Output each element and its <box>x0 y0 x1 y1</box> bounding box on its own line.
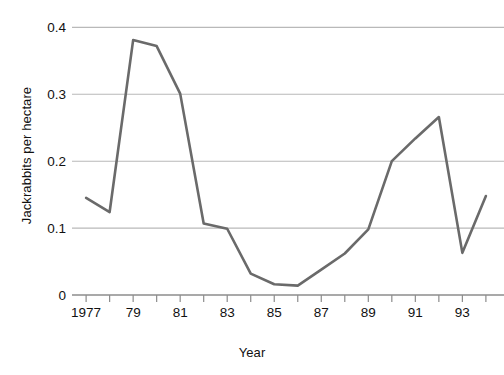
data-series-line <box>86 40 486 286</box>
chart-canvas <box>0 0 504 375</box>
gridlines <box>72 27 504 228</box>
x-axis-ticks <box>86 295 486 302</box>
line-chart: Jackrabbits per hectare Year 00.10.20.30… <box>0 0 504 375</box>
